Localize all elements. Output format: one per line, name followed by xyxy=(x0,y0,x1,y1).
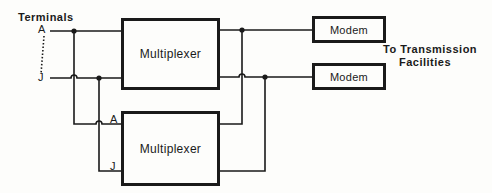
junction-dot xyxy=(71,28,76,33)
terminals-label: Terminals xyxy=(18,11,74,23)
modem-top-label: Modem xyxy=(330,24,368,36)
multiplexer-bottom-label: Multiplexer xyxy=(140,142,201,156)
connection-lines xyxy=(0,0,492,193)
junction-dot xyxy=(239,27,244,32)
terminal-range-dots xyxy=(41,36,44,74)
terminal-a-label: A xyxy=(38,23,45,35)
modem-bottom-label: Modem xyxy=(330,71,368,83)
mux-bottom-input-j-label: J xyxy=(110,160,116,172)
modem-bottom: Modem xyxy=(312,63,386,90)
modem-top: Modem xyxy=(312,16,386,43)
junction-dot xyxy=(96,75,101,80)
mux-bottom-input-a-label: A xyxy=(110,113,117,125)
terminal-j-label: J xyxy=(38,71,44,83)
multiplexer-top-label: Multiplexer xyxy=(140,47,201,61)
multiplexer-bottom: Multiplexer xyxy=(121,111,220,186)
destination-label-line1: To Transmission xyxy=(383,43,477,55)
multiplexer-top: Multiplexer xyxy=(121,18,220,90)
multiplexer-diagram: Terminals A J Multiplexer Multiplexer A … xyxy=(0,0,492,193)
destination-label-line2: Facilities xyxy=(399,56,451,68)
junction-dot xyxy=(262,74,267,79)
